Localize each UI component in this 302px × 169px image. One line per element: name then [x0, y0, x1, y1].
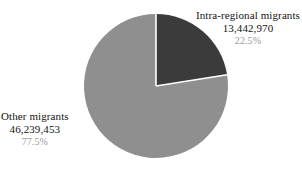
pie-label-intra-regional-migrants-value: 13,442,970 — [196, 22, 300, 35]
pie-label-intra-regional-migrants-percent: 22.5% — [196, 35, 300, 47]
pie-label-intra-regional-migrants: Intra-regional migrants 13,442,970 22.5% — [196, 9, 300, 47]
pie-label-other-migrants-title: Other migrants — [1, 110, 69, 123]
pie-label-other-migrants-value: 46,239,453 — [1, 123, 69, 136]
pie-label-intra-regional-migrants-title: Intra-regional migrants — [196, 9, 300, 22]
pie-label-other-migrants-percent: 77.5% — [1, 136, 69, 148]
pie-chart: Intra-regional migrants 13,442,970 22.5%… — [0, 0, 302, 169]
pie-label-other-migrants: Other migrants 46,239,453 77.5% — [1, 110, 69, 148]
